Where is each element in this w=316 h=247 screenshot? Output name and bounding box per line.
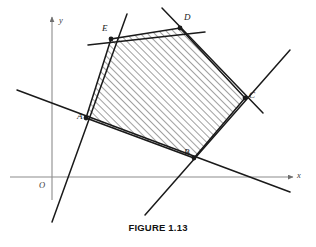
geometry-diagram [0,0,316,247]
shaded-region [86,28,245,158]
point-label-e: E [102,24,108,33]
origin-label: O [39,181,45,190]
vertex-dot-e [109,37,114,42]
vertex-dot-c [243,96,248,101]
vertex-dot-d [178,26,183,31]
vertex-dot-b [192,156,197,161]
y-axis-label: y [59,16,63,25]
point-label-b: B [184,148,190,157]
figure-container: ABCDE y x O FIGURE 1.13 [0,0,316,247]
point-label-a: A [77,112,83,121]
point-label-d: D [184,13,191,22]
x-axis-label: x [297,171,301,180]
point-label-c: C [249,91,255,100]
figure-caption: FIGURE 1.13 [0,222,316,233]
vertex-dot-a [84,116,89,121]
